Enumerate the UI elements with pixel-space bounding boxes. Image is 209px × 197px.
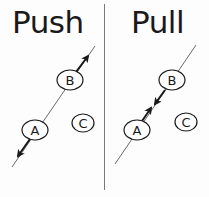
pull-node-a-label: A [133, 123, 142, 138]
push-pull-diagram: Push Pull B A C [0, 0, 209, 197]
pull-panel: B A C [115, 45, 197, 164]
push-node-b: B [57, 70, 83, 90]
pull-axis-line [115, 45, 196, 164]
pull-node-a: A [124, 120, 150, 140]
pull-node-b: B [159, 70, 185, 90]
push-node-b-label: B [66, 73, 75, 88]
push-arrow-up-icon [76, 56, 88, 72]
pull-node-c-label: C [181, 115, 190, 130]
pull-node-c: C [175, 113, 197, 131]
pull-arrow-down-icon [155, 90, 165, 104]
push-node-c: C [72, 114, 94, 132]
push-arrow-down-icon [18, 139, 30, 156]
pull-node-b-label: B [168, 73, 177, 88]
push-node-a: A [22, 120, 48, 140]
push-panel: B A C [12, 46, 95, 167]
push-node-a-label: A [31, 123, 40, 138]
pull-arrow-up-icon [142, 108, 151, 121]
push-node-c-label: C [78, 116, 87, 131]
diagram-graphics: B A C B A [0, 0, 209, 197]
